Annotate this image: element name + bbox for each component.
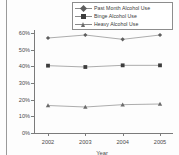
y-tick-label: 30% [19, 80, 30, 86]
x-tick [160, 133, 161, 136]
series-line [48, 65, 160, 67]
series-line [48, 104, 160, 107]
data-point-marker [121, 63, 125, 67]
x-tick-label: 2002 [42, 139, 54, 146]
y-tick-label: 40% [19, 63, 30, 69]
x-axis-title: Year [34, 150, 170, 155]
legend-marker-triangle-icon [75, 20, 92, 28]
legend-label-binge: Binge Alcohol Use [94, 12, 137, 20]
y-tick-label: 60% [19, 30, 30, 36]
series-1 [46, 33, 162, 42]
data-point-marker [158, 33, 162, 37]
series-plot [34, 33, 170, 133]
legend-marker-square-icon [75, 12, 92, 20]
legend-item-heavy: Heavy Alcohol Use [75, 20, 170, 28]
x-tick-label: 2005 [154, 139, 166, 146]
x-tick-label: 2003 [79, 139, 91, 146]
legend-marker-diamond-icon [75, 4, 92, 12]
line-chart-figure: Past Month Alcohol Use Binge Alcohol Use… [0, 0, 179, 155]
y-tick-label: 10% [19, 113, 30, 119]
x-tick-label: 2004 [116, 139, 128, 146]
legend-label-heavy: Heavy Alcohol Use [94, 20, 138, 28]
y-tick-label: 50% [19, 47, 30, 53]
legend-label-past-month: Past Month Alcohol Use [94, 4, 150, 12]
plot-area: 0%10%20%30%40%50%60% 2002200320042005 Ye… [34, 33, 170, 133]
y-tick-label: 20% [19, 97, 30, 103]
chart-legend: Past Month Alcohol Use Binge Alcohol Use… [72, 2, 173, 30]
legend-item-binge: Binge Alcohol Use [75, 12, 170, 20]
y-tick-label: 0% [22, 130, 30, 136]
data-point-marker [83, 65, 87, 69]
data-point-marker [158, 63, 162, 67]
data-point-marker [83, 33, 87, 37]
legend-item-past-month: Past Month Alcohol Use [75, 4, 170, 12]
x-tick [85, 133, 86, 136]
data-point-marker [121, 37, 125, 41]
x-axis-line [34, 133, 173, 134]
y-tick [31, 133, 34, 134]
data-point-marker [46, 36, 50, 40]
series-2 [46, 63, 162, 68]
series-3 [46, 102, 162, 109]
data-point-marker [46, 64, 50, 68]
page-canvas: Past Month Alcohol Use Binge Alcohol Use… [0, 0, 179, 155]
x-tick [123, 133, 124, 136]
series-line [48, 35, 160, 39]
x-tick [48, 133, 49, 136]
